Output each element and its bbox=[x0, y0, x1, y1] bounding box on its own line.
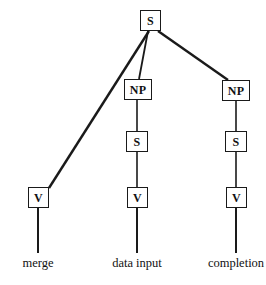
node-middle-np[interactable]: NP bbox=[124, 79, 152, 100]
node-root-s[interactable]: S bbox=[140, 10, 161, 31]
node-left-v[interactable]: V bbox=[28, 187, 49, 208]
tree-diagram-canvas: S NP NP S S V V V merge data input compl… bbox=[0, 0, 266, 285]
node-right-v-label: V bbox=[232, 192, 241, 204]
node-right-s[interactable]: S bbox=[225, 131, 247, 152]
node-right-s-label: S bbox=[233, 136, 240, 148]
node-right-np[interactable]: NP bbox=[222, 80, 250, 101]
node-middle-s-label: S bbox=[134, 136, 141, 148]
node-middle-v-label: V bbox=[133, 192, 142, 204]
leaf-label-completion: completion bbox=[208, 257, 264, 270]
node-right-v[interactable]: V bbox=[226, 187, 247, 208]
node-right-np-label: NP bbox=[228, 85, 244, 97]
node-middle-v[interactable]: V bbox=[127, 187, 148, 208]
edge-root-to-right-np bbox=[158, 31, 228, 80]
node-middle-s[interactable]: S bbox=[126, 131, 148, 152]
node-root-s-label: S bbox=[147, 15, 154, 27]
leaf-label-merge: merge bbox=[22, 257, 53, 270]
node-left-v-label: V bbox=[34, 192, 43, 204]
node-middle-np-label: NP bbox=[130, 84, 146, 96]
leaf-label-data-input: data input bbox=[112, 257, 162, 270]
edge-root-to-left-v bbox=[49, 31, 149, 188]
